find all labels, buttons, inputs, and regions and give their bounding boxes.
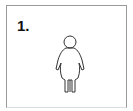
child-outline-icon xyxy=(52,32,88,96)
panel-number: 1. xyxy=(17,18,30,33)
